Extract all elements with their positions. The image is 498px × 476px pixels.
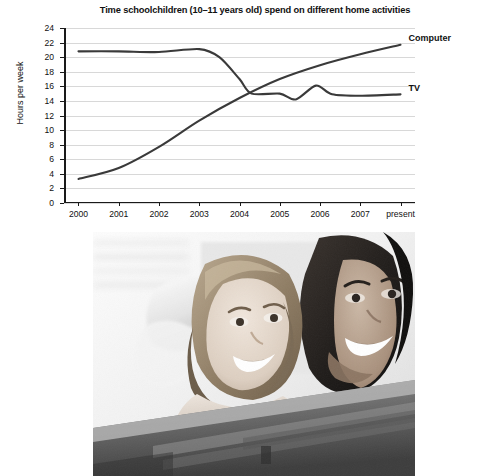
y-tick-label: 0 — [49, 198, 54, 208]
y-tick-label: 14 — [44, 96, 54, 106]
photograph-image — [93, 232, 415, 476]
y-tick-label: 22 — [44, 38, 54, 48]
chart-title: Time schoolchildren (10–11 years old) sp… — [60, 4, 450, 16]
y-tick-label: 12 — [44, 111, 54, 121]
y-tick-label: 6 — [49, 154, 54, 164]
y-tick-label: 20 — [44, 52, 54, 62]
photograph — [93, 232, 415, 476]
series-label-computer: Computer — [409, 33, 452, 43]
x-tick-label: 2004 — [230, 209, 249, 219]
y-tick-label: 18 — [44, 67, 54, 77]
y-tick-label: 16 — [44, 81, 54, 91]
y-tick-mark: 0 — [60, 203, 64, 204]
x-tick-label: 2001 — [109, 209, 128, 219]
x-tick-label: 2002 — [149, 209, 168, 219]
x-tick-label: 2003 — [190, 209, 209, 219]
y-tick-label: 10 — [44, 125, 54, 135]
x-tick-label: present — [386, 209, 415, 219]
series-lines — [64, 28, 415, 203]
figure: Time schoolchildren (10–11 years old) sp… — [0, 0, 498, 476]
x-tick-label: 2005 — [270, 209, 289, 219]
y-tick-label: 4 — [49, 169, 54, 179]
series-line-computer — [78, 45, 400, 179]
plot-area: 024681012141618202224 200020012002200320… — [64, 28, 415, 203]
y-tick-label: 2 — [49, 183, 54, 193]
y-tick-label: 24 — [44, 23, 54, 33]
line-chart: Time schoolchildren (10–11 years old) sp… — [0, 0, 498, 222]
y-axis-title: Hours per week — [15, 48, 25, 138]
x-tick-label: 2000 — [69, 209, 88, 219]
x-tick-label: 2007 — [351, 209, 370, 219]
x-tick-label: 2006 — [310, 209, 329, 219]
y-tick-label: 8 — [49, 140, 54, 150]
series-label-tv: TV — [409, 83, 421, 93]
